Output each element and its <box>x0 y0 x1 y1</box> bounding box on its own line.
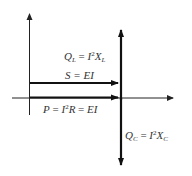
ql-symbol: Q <box>64 50 72 62</box>
qc-symbol: Q <box>125 129 133 141</box>
p-equals-1: = <box>50 103 62 115</box>
qc-equals: = <box>138 129 150 141</box>
diagram-svg <box>0 0 192 176</box>
p-ei: EI <box>87 103 97 115</box>
qc-label: QC = I2XC <box>125 130 168 143</box>
s-label: S = EI <box>65 70 94 81</box>
p-label: P = I2R = EI <box>43 104 97 115</box>
ql-label: QL = I2XL <box>64 51 105 64</box>
ql-reactance-subscript: L <box>101 56 105 64</box>
power-phasor-diagram: QL = I2XL S = EI P = I2R = EI QC = I2XC <box>0 0 192 176</box>
s-equation: S = EI <box>65 69 94 81</box>
p-equals-2: = <box>75 103 87 115</box>
p-symbol: P <box>43 103 50 115</box>
qc-reactance-subscript: C <box>163 135 168 143</box>
ql-equals: = <box>76 50 88 62</box>
